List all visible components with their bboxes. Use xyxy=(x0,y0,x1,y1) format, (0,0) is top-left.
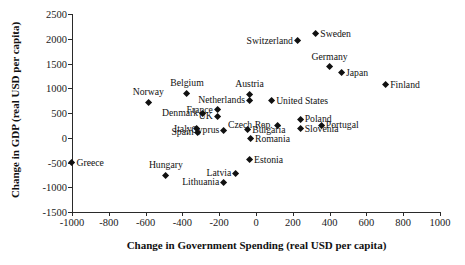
x-axis-tick-label: 600 xyxy=(359,217,375,228)
y-axis-tick xyxy=(68,64,72,65)
data-point-label: Belgium xyxy=(170,78,203,88)
y-axis-tick xyxy=(68,39,72,40)
y-axis-tick-label: -500 xyxy=(48,157,67,168)
x-axis-tick-label: -200 xyxy=(210,217,229,228)
data-point-label: Austria xyxy=(235,79,264,89)
x-axis-tick xyxy=(403,212,404,216)
x-axis-tick-label: -800 xyxy=(99,217,118,228)
data-point-label: Norway xyxy=(133,87,164,97)
data-point-label: Germany xyxy=(312,52,348,62)
data-point-label: Lithuania xyxy=(182,177,219,187)
x-axis-title: Change in Government Spending (real USD … xyxy=(72,239,441,251)
y-axis-tick xyxy=(68,138,72,139)
x-axis-tick xyxy=(293,212,294,216)
plot-area: -1500-1000-50005001000150020002500-1000-… xyxy=(72,14,440,212)
x-axis-tick xyxy=(330,212,331,216)
y-axis-tick xyxy=(68,187,72,188)
y-axis-tick-label: 1000 xyxy=(46,83,67,94)
x-axis-tick xyxy=(72,212,73,216)
y-axis-tick-label: 1500 xyxy=(46,58,67,69)
data-point-label: Finland xyxy=(390,80,420,90)
data-point-label: Czech Rep. xyxy=(228,121,273,131)
x-axis-tick xyxy=(109,212,110,216)
y-axis-tick xyxy=(68,113,72,114)
y-axis-tick-label: 0 xyxy=(62,132,67,143)
data-point-label: Sweden xyxy=(320,29,351,39)
data-point-label: Portugal xyxy=(326,121,359,131)
x-axis-tick xyxy=(182,212,183,216)
y-axis-tick xyxy=(68,14,72,15)
x-axis-tick-label: -400 xyxy=(173,217,192,228)
data-point-label: Romania xyxy=(255,134,290,144)
x-axis-tick xyxy=(219,212,220,216)
y-axis-tick-label: -1500 xyxy=(43,207,68,218)
x-axis-tick-label: 0 xyxy=(253,217,258,228)
y-axis-tick xyxy=(68,88,72,89)
y-axis-tick-label: 500 xyxy=(51,108,67,119)
data-point-label: Estonia xyxy=(254,155,283,165)
y-axis-tick-label: -1000 xyxy=(43,182,68,193)
y-axis-title: Change in GDP (real USD per capita) xyxy=(9,11,21,209)
data-point-label: Cyprus xyxy=(191,125,219,135)
x-axis-tick xyxy=(440,212,441,216)
data-point-label: Greece xyxy=(77,158,104,168)
x-axis-tick-label: -1000 xyxy=(60,217,85,228)
data-point-label: United States xyxy=(276,96,328,106)
x-axis-tick-label: 200 xyxy=(285,217,301,228)
y-axis-tick-label: 2000 xyxy=(46,33,67,44)
data-point-label: UK xyxy=(199,112,213,122)
x-axis-tick-label: 400 xyxy=(322,217,338,228)
data-point-label: Netherlands xyxy=(198,95,245,105)
y-axis-tick-label: 2500 xyxy=(46,9,67,20)
data-point-label: Spain xyxy=(171,127,193,137)
x-axis-tick-label: -600 xyxy=(136,217,155,228)
x-axis-tick-label: 1000 xyxy=(430,217,451,228)
data-point-label: Japan xyxy=(346,68,368,78)
data-point-label: Switzerland xyxy=(247,36,293,46)
scatter-chart: Change in GDP (real USD per capita) -150… xyxy=(0,0,465,265)
data-point-label: Latvia xyxy=(207,169,232,179)
x-axis-tick xyxy=(256,212,257,216)
x-axis-tick xyxy=(146,212,147,216)
x-axis-tick xyxy=(366,212,367,216)
x-axis-tick-label: 800 xyxy=(395,217,411,228)
data-point-label: Hungary xyxy=(149,161,183,171)
